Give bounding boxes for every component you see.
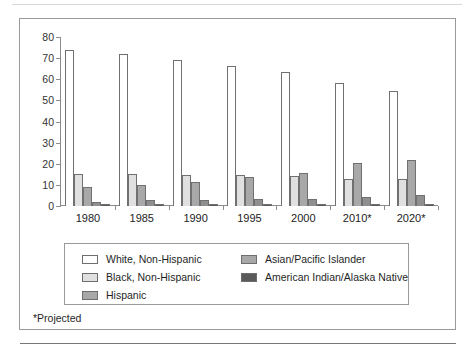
legend-swatch-icon [241,255,257,264]
y-axis-tick-label: 20 [32,158,54,170]
bar [299,173,308,206]
legend-swatch-icon [82,255,98,264]
bar-group [281,37,326,206]
y-axis-tick-label: 80 [32,31,54,43]
legend-item: White, Non-Hispanic [82,251,202,267]
legend-item: American Indian/Alaska Native [241,269,408,285]
legend-swatch-icon [82,273,98,282]
x-axis-category-label: 2020* [384,212,438,225]
bar [209,204,218,206]
bar-group [65,37,110,206]
legend-label: White, Non-Hispanic [106,253,202,265]
bar [227,66,236,206]
footnote-projected: *Projected [33,312,81,324]
legend-label: Asian/Pacific Islander [265,253,365,265]
bar [182,175,191,206]
legend-column-left: White, Non-HispanicBlack, Non-HispanicHi… [82,251,202,305]
legend-item: Hispanic [82,287,202,303]
bar-group [173,37,218,206]
bar [200,200,209,206]
bar [65,50,74,206]
chart-legend: White, Non-HispanicBlack, Non-HispanicHi… [64,243,409,305]
x-axis-category-label: 2010* [330,212,384,225]
bar [236,175,245,206]
y-axis-tick-label: 30 [32,137,54,149]
bar [83,187,92,206]
x-axis-category-label: 2000 [276,212,330,225]
bar [371,204,380,206]
bar [335,83,344,206]
bar-group [335,37,380,206]
bar [254,199,263,206]
y-axis-tick-label: 70 [32,52,54,64]
x-axis-tick [384,206,385,210]
bar [407,160,416,206]
x-axis-tick [223,206,224,210]
y-axis-tick [56,206,61,207]
x-axis-category-label: 1995 [223,212,277,225]
page-canvas: 01020304050607080 1980198519901995200020… [0,0,474,353]
y-axis-tick-label: 40 [32,116,54,128]
x-axis-category-label: 1985 [115,212,169,225]
bar [191,182,200,206]
x-axis-tick [438,206,439,210]
legend-swatch-icon [241,273,257,282]
bar [155,204,164,206]
bar [101,204,110,206]
bar [281,72,290,206]
plot-area: 01020304050607080 1980198519901995200020… [32,31,444,226]
legend-swatch-icon [82,291,98,300]
bar [92,202,101,206]
bar [425,204,434,206]
x-axis-tick [276,206,277,210]
page-rule-top [12,4,462,5]
bar [290,176,299,206]
x-axis-category-label: 1980 [61,212,115,225]
bar [317,204,326,206]
bar [146,200,155,206]
bar [137,185,146,206]
y-axis-tick-label: 0 [32,200,54,212]
bar [119,54,128,206]
legend-item: Asian/Pacific Islander [241,251,408,267]
x-axis-category-label: 1990 [169,212,223,225]
x-axis-tick [169,206,170,210]
bar [308,199,317,206]
bar [263,204,272,206]
legend-label: Hispanic [106,289,146,301]
bar [74,174,83,206]
bar [416,195,425,206]
figure-frame: 01020304050607080 1980198519901995200020… [19,18,456,330]
bar [245,177,254,206]
bar [353,163,362,206]
legend-label: American Indian/Alaska Native [265,271,408,283]
y-axis-tick-label: 10 [32,179,54,191]
bars-layer [61,37,438,206]
bar [398,179,407,206]
bar [128,174,137,206]
bar-group [389,37,434,206]
bar [389,91,398,206]
legend-item: Black, Non-Hispanic [82,269,202,285]
x-axis-tick [330,206,331,210]
bar [362,197,371,207]
x-axis-tick [115,206,116,210]
bar [173,60,182,206]
legend-column-right: Asian/Pacific IslanderAmerican Indian/Al… [241,251,408,287]
y-axis-tick-label: 50 [32,94,54,106]
page-rule-bottom [20,343,456,344]
legend-label: Black, Non-Hispanic [106,271,201,283]
bar-group [227,37,272,206]
bar [344,179,353,206]
bar-group [119,37,164,206]
y-axis-tick-label: 60 [32,73,54,85]
